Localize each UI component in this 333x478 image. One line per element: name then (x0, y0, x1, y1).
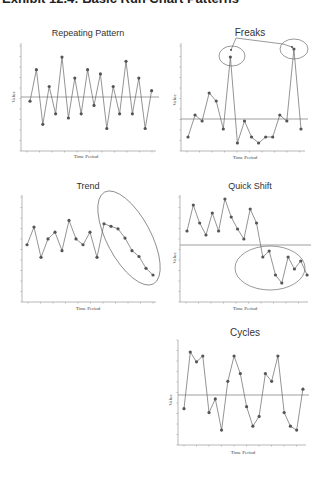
data-point (118, 112, 121, 115)
y-axis-label: Value (172, 94, 177, 106)
data-point (46, 237, 49, 240)
data-point (293, 267, 296, 270)
data-point (301, 388, 304, 391)
chart-repeating-pattern: Repeating PatternTime PeriodValue (11, 28, 159, 159)
data-point (211, 211, 214, 214)
chart-title: Cycles (230, 327, 260, 338)
chart-title: Trend (76, 181, 99, 191)
leader-arrow-dot (291, 46, 293, 48)
highlight-ellipse (85, 182, 173, 294)
data-point (67, 116, 70, 119)
series-line (30, 57, 152, 128)
series-line (187, 199, 307, 283)
data-point (144, 127, 147, 130)
data-point (99, 72, 102, 75)
series-line (27, 220, 153, 275)
data-point (95, 256, 98, 259)
data-point (220, 429, 223, 432)
data-point (278, 113, 281, 116)
data-point (208, 91, 211, 94)
data-point (81, 243, 84, 246)
data-point (236, 141, 239, 144)
data-point (299, 127, 302, 130)
data-point (292, 47, 295, 50)
data-point (222, 127, 225, 130)
data-point (230, 215, 233, 218)
chart-title: Freaks (235, 27, 266, 38)
data-point (232, 354, 235, 357)
data-point (28, 100, 31, 103)
data-point (276, 354, 279, 357)
data-point (137, 255, 140, 258)
data-point (48, 85, 51, 88)
data-point (67, 219, 70, 222)
data-point (251, 425, 254, 428)
data-point (295, 429, 298, 432)
data-point (264, 135, 267, 138)
data-point (102, 222, 105, 225)
data-point (109, 225, 112, 228)
series-line (184, 352, 303, 430)
data-point (137, 77, 140, 80)
data-point (287, 255, 290, 258)
data-point (223, 197, 226, 200)
data-point (151, 273, 154, 276)
data-point (74, 237, 77, 240)
data-point (105, 127, 108, 130)
x-axis-label: Time Period (233, 155, 258, 160)
data-point (264, 372, 267, 375)
data-point (60, 56, 63, 59)
y-axis-label: Value (168, 394, 173, 406)
chart-quick-shift: Quick ShiftTime PeriodValue (172, 181, 311, 311)
data-point (280, 281, 283, 284)
data-point (116, 227, 119, 230)
data-point (245, 405, 248, 408)
data-point (285, 119, 288, 122)
y-axis-label: Value (11, 91, 16, 103)
data-point (32, 226, 35, 229)
data-point (268, 249, 271, 252)
data-point (243, 119, 246, 122)
data-point (257, 141, 260, 144)
data-point (217, 229, 220, 232)
run-chart-patterns: Repeating PatternTime PeriodValue Freaks… (0, 0, 333, 478)
data-point (236, 227, 239, 230)
data-point (239, 372, 242, 375)
data-point (261, 255, 264, 258)
data-point (255, 221, 258, 224)
data-point (299, 259, 302, 262)
data-point (201, 354, 204, 357)
data-point (60, 249, 63, 252)
data-point (92, 104, 95, 107)
highlight-ellipse (219, 46, 245, 66)
data-point (242, 237, 245, 240)
data-point (182, 407, 185, 410)
data-point (123, 236, 126, 239)
data-point (124, 60, 127, 63)
data-point (229, 55, 232, 58)
data-point (88, 231, 91, 234)
data-point (73, 77, 76, 80)
data-point (112, 85, 115, 88)
data-point (144, 267, 147, 270)
chart-title: Repeating Pattern (52, 28, 125, 38)
data-point (25, 243, 28, 246)
data-point (189, 351, 192, 354)
data-point (249, 207, 252, 210)
x-axis-label: Time Period (231, 450, 256, 455)
data-point (226, 380, 229, 383)
chart-freaks: FreaksTime PeriodValue (172, 27, 308, 160)
chart-cycles: CyclesTime PeriodValue (168, 327, 309, 455)
data-point (270, 380, 273, 383)
data-point (305, 273, 308, 276)
chart-trend: TrendTime Period (21, 181, 173, 311)
chart-title: Quick Shift (228, 181, 272, 191)
data-point (274, 273, 277, 276)
data-point (214, 397, 217, 400)
data-point (250, 135, 253, 138)
data-point (86, 68, 89, 71)
data-point (54, 112, 57, 115)
data-point (130, 249, 133, 252)
series-line (188, 49, 301, 143)
y-axis-label: Value (172, 252, 177, 264)
